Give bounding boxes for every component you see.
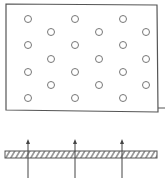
hole-circle (48, 56, 55, 63)
hole-circle (120, 95, 127, 102)
hole-circle (120, 16, 127, 23)
hole-circle (143, 56, 150, 63)
hole-circle (72, 42, 79, 49)
hole-circle (96, 82, 103, 89)
hole-circle (72, 16, 79, 23)
holes (25, 16, 150, 102)
hole-circle (25, 16, 32, 23)
perforated-plate (6, 4, 165, 112)
hole-circle (48, 29, 55, 36)
hole-circle (25, 95, 32, 102)
hole-circle (96, 56, 103, 63)
hole-circle (143, 82, 150, 89)
hole-circle (25, 69, 32, 76)
hole-circle (120, 69, 127, 76)
hole-circle (48, 82, 55, 89)
hole-circle (72, 69, 79, 76)
diagram-canvas (0, 0, 166, 194)
hole-circle (25, 42, 32, 49)
hole-circle (72, 95, 79, 102)
plate-outline (6, 4, 158, 112)
hole-circle (143, 29, 150, 36)
hole-circle (120, 42, 127, 49)
hole-circle (96, 29, 103, 36)
